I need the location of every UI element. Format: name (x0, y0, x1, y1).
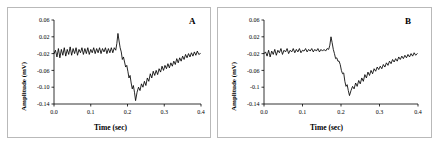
y-tick-label: -0.1 (250, 84, 260, 90)
panel-b: B Amplitude (mV) Time (sec) 0.060.02-0.0… (217, 7, 432, 138)
figure-container: A Amplitude (mV) Time (sec) 0.060.02-0.0… (0, 0, 440, 154)
y-tick-label: 0.02 (249, 34, 260, 40)
y-tick-label: -0.10 (37, 84, 50, 90)
x-tick-label: 0.2 (124, 109, 132, 115)
y-tick-label: -0.14 (247, 101, 260, 107)
waveform-trace (54, 33, 200, 100)
waveform-trace (264, 37, 417, 96)
y-tick-label: -0.06 (247, 68, 260, 74)
x-tick-label: 0.0 (260, 109, 268, 115)
y-tick-label: 0.06 (249, 17, 260, 23)
x-tick-label: 0.4 (414, 109, 422, 115)
y-tick-label: -0.06 (37, 68, 50, 74)
y-tick-label: -0.14 (37, 101, 50, 107)
x-tick-label: 0.1 (299, 109, 307, 115)
panel-a-plot: 0.060.02-0.02-0.06-0.10-0.140.00.10.20.3… (8, 8, 212, 139)
panel-a: A Amplitude (mV) Time (sec) 0.060.02-0.0… (7, 7, 211, 138)
x-tick-label: 0.1 (87, 109, 95, 115)
panel-b-plot: 0.060.02-0.02-0.06-0.1-0.140.00.10.20.30… (218, 8, 433, 139)
y-tick-label: 0.02 (39, 34, 50, 40)
y-tick-label: 0.06 (39, 17, 50, 23)
x-tick-label: 0.4 (197, 109, 205, 115)
x-tick-label: 0.3 (161, 109, 169, 115)
x-tick-label: 0.2 (337, 109, 345, 115)
x-tick-label: 0.0 (50, 109, 58, 115)
x-tick-label: 0.3 (376, 109, 384, 115)
y-tick-label: -0.02 (247, 51, 260, 57)
y-tick-label: -0.02 (37, 51, 50, 57)
